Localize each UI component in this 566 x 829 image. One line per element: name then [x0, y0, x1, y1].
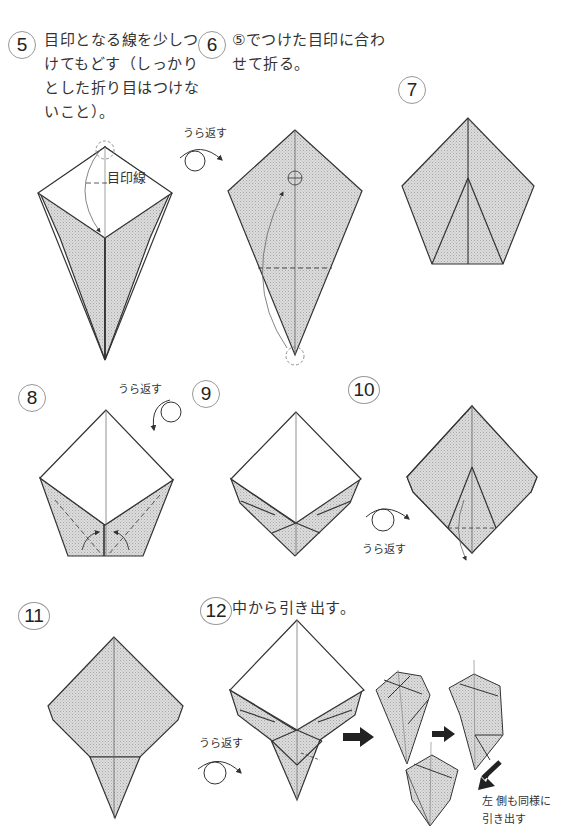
step-11-diagram [48, 637, 183, 818]
turn-over-label-1: うら返す [183, 124, 227, 140]
origami-diagram-canvas [0, 0, 566, 829]
step-12-sub-diagram-a [376, 670, 430, 764]
turn-over-arrow-2 [153, 400, 181, 430]
step-number-6: 6 [198, 31, 226, 59]
step-12-note: 左 側も同様に 引き出す [482, 793, 552, 829]
step-number-11: 11 [18, 602, 50, 630]
step-8-diagram [40, 410, 173, 556]
pull-arrow-shaft [483, 762, 500, 778]
turn-over-arrow-3 [366, 509, 409, 531]
next-arrow-2 [432, 726, 455, 742]
step-6-line-2: せて折る。 [232, 52, 402, 76]
turn-over-label-3: うら返す [362, 540, 406, 556]
step-12-note-line-1: 左 側も同様に [482, 793, 552, 811]
step-5-line-4: いこと）。 [44, 100, 204, 124]
turn-over-arrow-4 [198, 761, 241, 784]
step-number-5: 5 [8, 31, 36, 59]
step-5-instruction: 目印となる線を少しつ けてもどす（しっかり とした折り目はつけな いこと）。 [44, 28, 204, 124]
step-5-line-1: 目印となる線を少しつ [44, 28, 204, 52]
guide-line-label: 目印線 [107, 167, 146, 186]
step-number-12: 12 [200, 597, 232, 625]
step-6-diagram [228, 130, 362, 365]
step-number-9: 9 [192, 380, 220, 408]
turn-over-label-4: うら返す [199, 734, 243, 750]
turn-over-label-2: うら返す [118, 380, 162, 396]
step-5-line-2: けてもどす（しっかり [44, 52, 204, 76]
next-arrow-1 [343, 727, 374, 747]
step-10-diagram [407, 406, 537, 560]
step-9-diagram [231, 412, 361, 556]
step-6-line-1: ⑤でつけた目印に合わ [232, 28, 402, 52]
step-6-instruction: ⑤でつけた目印に合わ せて折る。 [232, 28, 402, 76]
step-12-sub-diagram-c [406, 742, 458, 826]
step-number-10: 10 [348, 376, 380, 404]
step-5-diagram [38, 141, 172, 360]
step-12-sub-diagram-b [449, 660, 503, 770]
step-12-diagram [230, 620, 364, 800]
step-12-note-line-2: 引き出す [482, 811, 552, 829]
step-number-7: 7 [398, 76, 426, 104]
turn-over-arrow-1 [180, 149, 222, 171]
step-number-8: 8 [18, 384, 46, 412]
step-12-instruction: 中から引き出す。 [232, 596, 355, 620]
step-7-diagram [402, 118, 534, 264]
step-5-line-3: とした折り目はつけな [44, 76, 204, 100]
